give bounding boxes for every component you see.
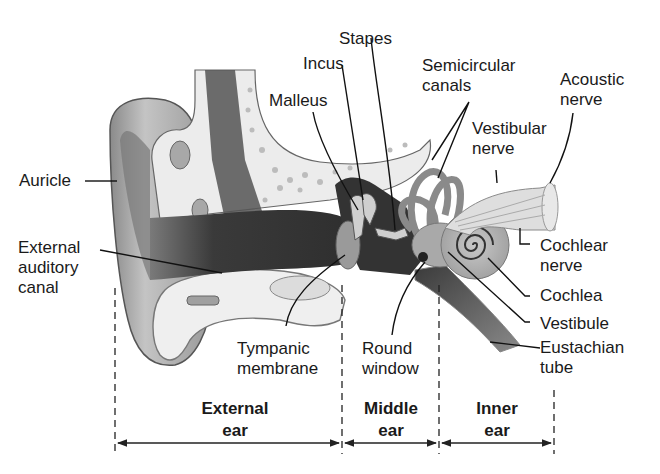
label-tympanic-membrane: Tympanic membrane bbox=[237, 339, 318, 379]
region-middle-ear: Middle ear bbox=[345, 398, 437, 442]
label-vestibular-nerve: Vestibular nerve bbox=[472, 119, 547, 159]
label-stapes: Stapes bbox=[339, 29, 392, 49]
label-malleus: Malleus bbox=[269, 91, 328, 111]
external-auditory-canal-shape bbox=[150, 210, 360, 280]
region-inner-ear: Inner ear bbox=[452, 398, 542, 442]
region-external-ear: External ear bbox=[180, 398, 290, 442]
label-eustachian-tube: Eustachian tube bbox=[540, 338, 624, 378]
round-window-shape bbox=[418, 252, 428, 262]
label-cochlear-nerve: Cochlear nerve bbox=[540, 236, 608, 276]
label-auricle: Auricle bbox=[19, 171, 71, 191]
label-external-auditory-canal: External auditory canal bbox=[18, 238, 80, 298]
label-acoustic-nerve: Acoustic nerve bbox=[560, 70, 624, 110]
label-semicircular-canals: Semicircular canals bbox=[422, 56, 516, 96]
label-incus: Incus bbox=[303, 54, 344, 74]
label-cochlea: Cochlea bbox=[540, 286, 602, 306]
label-vestibule: Vestibule bbox=[540, 314, 609, 334]
label-round-window: Round window bbox=[362, 339, 419, 379]
